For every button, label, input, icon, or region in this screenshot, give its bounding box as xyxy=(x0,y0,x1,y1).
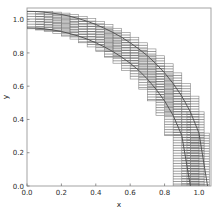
hatched-boxes-layer xyxy=(27,11,209,186)
figure-canvas: 0.00.20.40.60.81.00.00.20.40.60.81.0xy xyxy=(0,0,221,213)
y-axis-title: y xyxy=(1,94,10,99)
x-axis-title: x xyxy=(117,200,122,209)
y-tick-label: 0.4 xyxy=(13,116,25,124)
x-tick-label: 0.8 xyxy=(159,189,170,197)
y-tick-label: 0.8 xyxy=(13,50,24,58)
x-tick-label: 1.0 xyxy=(193,189,204,197)
x-tick-label: 0.4 xyxy=(90,189,102,197)
y-tick-label: 0.0 xyxy=(13,183,24,191)
y-tick-label: 1.0 xyxy=(13,16,24,24)
y-tick-label: 0.6 xyxy=(13,83,25,91)
x-tick-label: 0.2 xyxy=(56,189,67,197)
chart-plot: 0.00.20.40.60.81.00.00.20.40.60.81.0xy xyxy=(0,0,221,213)
x-tick-label: 0.6 xyxy=(125,189,137,197)
axes-frame xyxy=(27,8,211,186)
plot-frame xyxy=(27,8,211,186)
y-tick-label: 0.2 xyxy=(13,149,24,157)
